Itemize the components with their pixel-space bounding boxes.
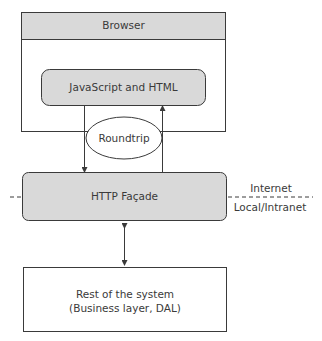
facade-label: HTTP Façade — [22, 190, 227, 203]
backend-label-line1: Rest of the system — [23, 288, 227, 301]
intranet-label: Local/Intranet — [230, 201, 310, 214]
internet-label: Internet — [236, 182, 306, 195]
backend-label-line2: (Business layer, DAL) — [23, 302, 227, 315]
client-code-label: JavaScript and HTML — [41, 81, 206, 94]
browser-label: Browser — [21, 19, 226, 32]
roundtrip-label: Roundtrip — [86, 132, 162, 145]
